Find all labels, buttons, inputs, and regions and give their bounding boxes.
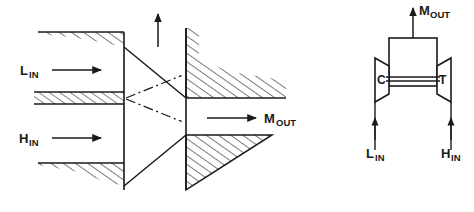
l-in-label-sub: IN <box>29 69 39 80</box>
lower-diverging-wall <box>124 135 186 186</box>
turbine-label: T <box>439 73 447 87</box>
m-out-label-base: M <box>419 3 430 18</box>
figure-canvas: L IN H IN M OUT M OUT C T <box>0 0 474 212</box>
l-in-label-base: L <box>20 63 28 78</box>
ejector-cross-section: L IN H IN M OUT <box>19 14 296 190</box>
lower-chain-line <box>126 99 182 121</box>
m-out-label-base: M <box>264 111 275 126</box>
mixer-box <box>389 38 437 86</box>
h-in-label-base: H <box>19 131 28 146</box>
l-in-label-base: L <box>366 146 374 161</box>
upper-right-hatched-wall <box>186 28 286 98</box>
l-in-label-sub: IN <box>375 152 385 163</box>
lower-right-hatched-wedge <box>186 135 272 190</box>
lower-left-hatched-wall <box>38 163 124 186</box>
m-out-label-sub: OUT <box>430 9 450 20</box>
turbomachine-schematic: M OUT C T L IN H IN <box>366 3 461 163</box>
m-out-label-sub: OUT <box>276 117 296 128</box>
upper-diverging-wall <box>124 47 186 98</box>
upper-left-hatched-wall <box>38 32 124 47</box>
technical-figure: L IN H IN M OUT M OUT C T <box>0 0 474 212</box>
h-in-label-sub: IN <box>29 137 39 148</box>
h-in-label-sub: IN <box>451 152 461 163</box>
h-in-label-base: H <box>441 146 450 161</box>
center-hatched-splitter <box>34 92 124 104</box>
compressor-label: C <box>377 73 386 87</box>
